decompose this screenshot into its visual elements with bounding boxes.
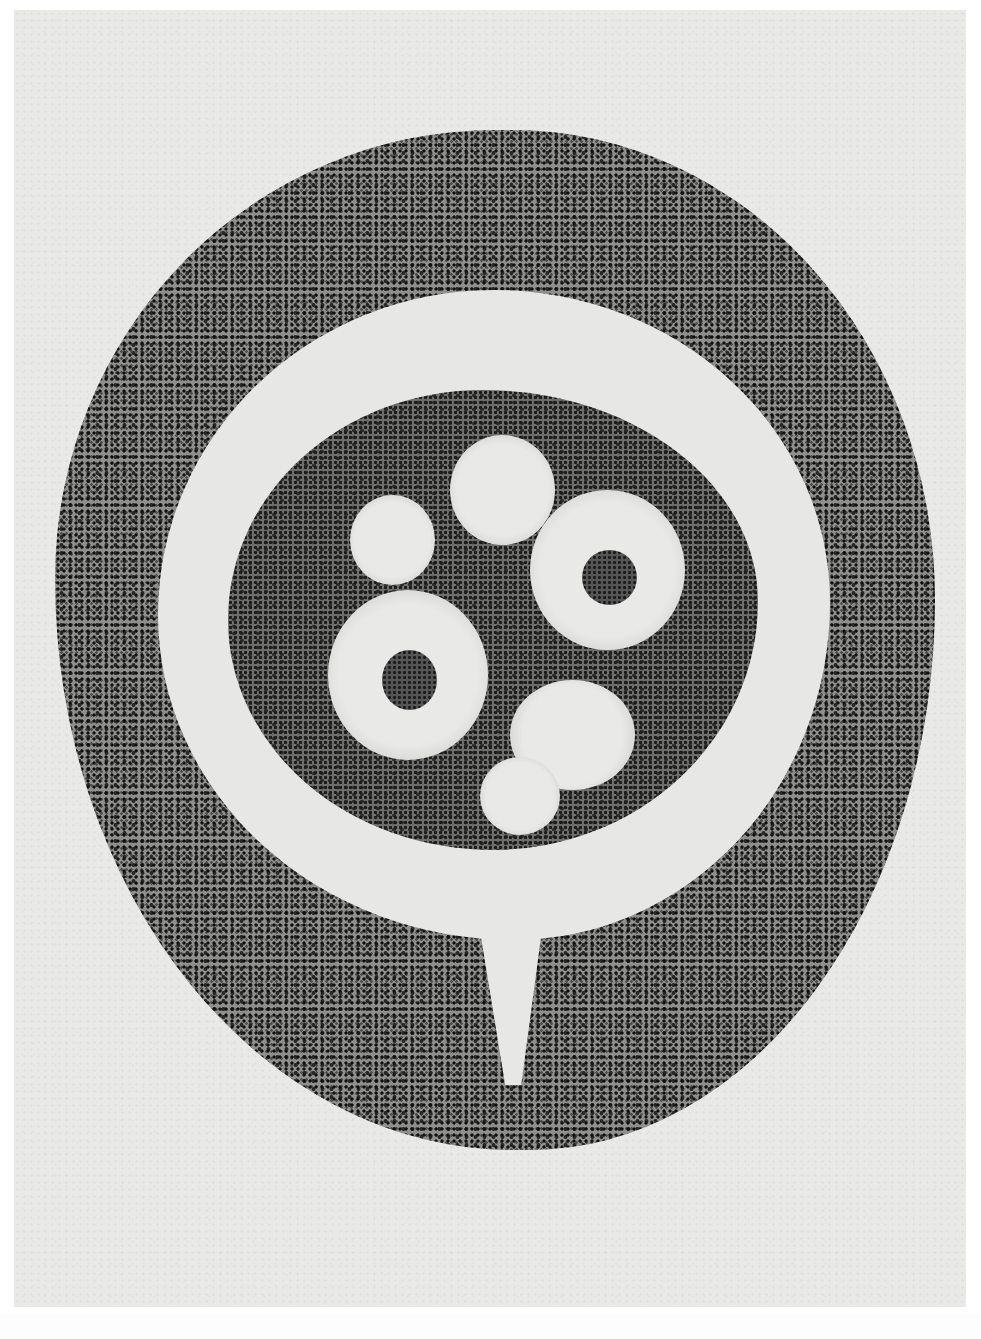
vacuole-top [450, 435, 555, 545]
nucleus-left [382, 650, 437, 710]
page-margin [0, 1313, 981, 1339]
nucleus-right [582, 550, 637, 605]
vacuole-bottom [480, 757, 560, 835]
vacuole-top-left [350, 495, 435, 585]
